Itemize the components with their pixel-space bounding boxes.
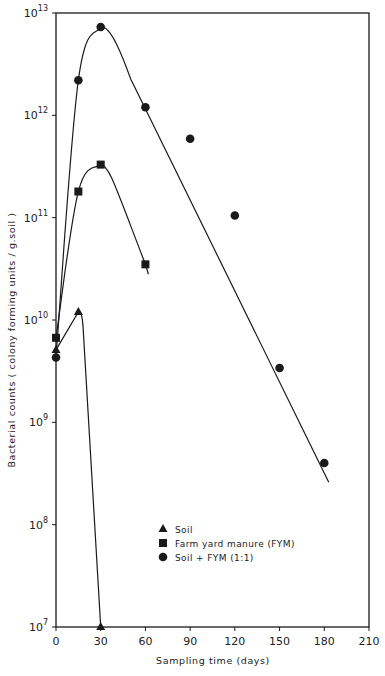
bacterial-counts-chart: 1071081091010101110121013 03060901201501…	[0, 0, 385, 676]
circle-data-point	[96, 23, 105, 32]
y-tick-label: 1013	[24, 4, 48, 20]
triangle-data-point	[52, 345, 61, 353]
circle-data-point	[320, 459, 329, 468]
legend-label: Farm yard manure (FYM)	[175, 539, 295, 549]
triangle-data-point	[74, 307, 83, 315]
x-tick-label: 210	[359, 635, 380, 648]
circle-data-point	[275, 364, 284, 373]
y-tick-label: 1010	[24, 311, 48, 327]
y-axis: 1071081091010101110121013	[24, 4, 56, 634]
square-legend-icon	[159, 539, 167, 547]
x-axis-title: Sampling time (days)	[156, 655, 270, 666]
y-tick-label: 1011	[24, 209, 48, 225]
legend-label: Soil + FYM (1:1)	[175, 553, 254, 563]
legend-item: Soil + FYM (1:1)	[159, 553, 254, 563]
plot-border	[56, 13, 369, 627]
triangle-legend-icon	[159, 524, 168, 532]
circle-data-point	[141, 103, 150, 112]
triangle-data-point	[96, 622, 105, 630]
x-tick-label: 30	[94, 635, 108, 648]
square-data-point	[97, 161, 105, 169]
curves	[56, 27, 329, 627]
y-axis-title: Bacterial counts ( colony forming units …	[6, 212, 17, 467]
x-tick-label: 120	[224, 635, 245, 648]
y-tick-label: 107	[29, 618, 48, 634]
legend-item: Soil	[159, 524, 193, 535]
x-axis: 0306090120150180210	[53, 627, 380, 648]
circle-data-point	[186, 134, 195, 143]
x-tick-label: 180	[314, 635, 335, 648]
circle-data-point	[52, 353, 61, 362]
x-tick-label: 60	[138, 635, 152, 648]
curve-square	[56, 165, 148, 338]
legend-item: Farm yard manure (FYM)	[159, 539, 295, 549]
x-tick-label: 150	[269, 635, 290, 648]
y-tick-label: 108	[29, 516, 48, 532]
y-tick-label: 109	[29, 413, 48, 429]
x-tick-label: 0	[53, 635, 60, 648]
curve-circle	[56, 27, 329, 482]
circle-data-point	[74, 76, 83, 85]
square-data-point	[141, 260, 149, 268]
circle-data-point	[231, 211, 240, 220]
x-tick-label: 90	[183, 635, 197, 648]
plot-frame	[56, 13, 369, 627]
y-tick-label: 1012	[24, 106, 48, 122]
square-data-point	[74, 188, 82, 196]
legend-label: Soil	[175, 525, 193, 535]
curve-triangle	[56, 312, 101, 627]
square-data-point	[52, 334, 60, 342]
circle-legend-icon	[159, 553, 168, 562]
legend: SoilFarm yard manure (FYM)Soil + FYM (1:…	[159, 524, 295, 563]
